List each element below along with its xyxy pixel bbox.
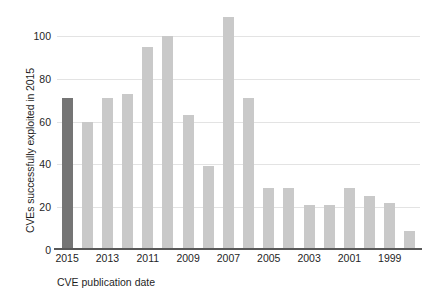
- bar-2003: [304, 205, 315, 250]
- x-axis-title: CVE publication date: [57, 276, 155, 288]
- x-axis-tick-label-1999: 1999: [378, 252, 401, 264]
- bar-2015: [62, 98, 73, 250]
- bar-2014: [82, 122, 93, 250]
- y-axis-tick-label: 0: [45, 244, 51, 256]
- bar-series: [57, 8, 420, 250]
- x-axis-tick-label-2013: 2013: [96, 252, 119, 264]
- y-axis-tick-label: 20: [39, 201, 51, 213]
- x-axis-tick-labels: 201520132011200920072005200320011999: [57, 252, 420, 268]
- bar-2000: [364, 196, 375, 250]
- y-axis-tick-label: 100: [33, 30, 51, 42]
- x-axis-tick-label-2003: 2003: [297, 252, 320, 264]
- bar-2004: [283, 188, 294, 250]
- x-axis-line: [54, 248, 422, 250]
- y-axis-tick-label: 40: [39, 158, 51, 170]
- y-axis-tick-label: 60: [39, 116, 51, 128]
- x-axis-tick-label-2001: 2001: [338, 252, 361, 264]
- x-axis-tick-label-2015: 2015: [55, 252, 78, 264]
- bar-2012: [122, 94, 133, 250]
- x-axis-tick-label-2009: 2009: [176, 252, 199, 264]
- y-axis-tick-label: 80: [39, 73, 51, 85]
- bar-2001: [344, 188, 355, 250]
- plot-area: 020406080100: [57, 8, 420, 250]
- bar-2011: [142, 47, 153, 250]
- x-axis-tick-label-2011: 2011: [136, 252, 159, 264]
- bar-2006: [243, 98, 254, 250]
- bar-chart: CVEs successfully exploited in 2015 0204…: [0, 0, 429, 301]
- bar-2008: [203, 166, 214, 250]
- bar-2005: [263, 188, 274, 250]
- x-axis-tick-label-2007: 2007: [217, 252, 240, 264]
- x-axis-tick-label-2005: 2005: [257, 252, 280, 264]
- y-axis-title: CVEs successfully exploited in 2015: [20, 0, 40, 301]
- bar-2007: [223, 17, 234, 250]
- bar-2002: [324, 205, 335, 250]
- bar-1999: [384, 203, 395, 250]
- bar-2009: [183, 115, 194, 250]
- bar-2010: [162, 36, 173, 250]
- bar-2013: [102, 98, 113, 250]
